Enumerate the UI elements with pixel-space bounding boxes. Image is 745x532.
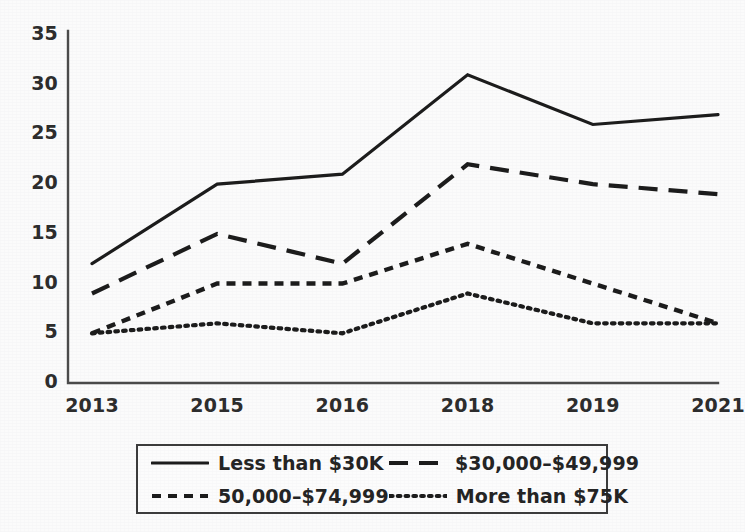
y-axis-tick-label: 5 — [12, 320, 58, 342]
legend-label: $30,000–$49,999 — [455, 452, 639, 474]
legend-line-sample-short-dash-icon — [151, 490, 209, 502]
series-line — [92, 75, 718, 264]
series-line — [92, 294, 718, 334]
series-line — [92, 244, 718, 333]
legend-row: Less than $30K $30,000–$49,999 — [138, 446, 606, 479]
legend-label: More than $75K — [456, 485, 628, 507]
legend-entry-more-than-75k: More than $75K — [389, 485, 607, 507]
legend-label: Less than $30K — [218, 452, 384, 474]
x-axis-tick-label: 2013 — [57, 394, 127, 416]
y-axis-tick-label: 30 — [12, 72, 58, 94]
legend-line-sample-long-dash-icon — [388, 457, 446, 469]
x-axis-tick-label: 2015 — [182, 394, 252, 416]
y-axis-tick-label: 10 — [12, 271, 58, 293]
x-axis-tick-label: 2019 — [558, 394, 628, 416]
legend-entry-less-than-30k: Less than $30K — [151, 452, 388, 474]
legend-line-sample-solid-icon — [151, 457, 209, 469]
y-axis-tick-label: 15 — [12, 221, 58, 243]
y-axis-tick-label: 35 — [12, 22, 58, 44]
x-axis-tick-label: 2021 — [683, 394, 745, 416]
legend-row: 50,000–$74,999 More than $75K — [138, 479, 606, 512]
x-axis-tick-label: 2016 — [307, 394, 377, 416]
y-axis-tick-label: 25 — [12, 121, 58, 143]
line-chart-figure: 05101520253035201320152016201820192021 L… — [0, 0, 745, 532]
y-axis-tick-label: 20 — [12, 171, 58, 193]
y-axis-tick-label: 0 — [12, 370, 58, 392]
legend-line-sample-dotted-icon — [389, 490, 447, 502]
legend-entry-30000-49999: $30,000–$49,999 — [388, 452, 606, 474]
legend-label: 50,000–$74,999 — [218, 485, 389, 507]
chart-legend: Less than $30K $30,000–$49,999 50,000–$7… — [136, 444, 608, 514]
legend-entry-50000-74999: 50,000–$74,999 — [151, 485, 389, 507]
series-line — [92, 164, 718, 293]
x-axis-tick-label: 2018 — [433, 394, 503, 416]
